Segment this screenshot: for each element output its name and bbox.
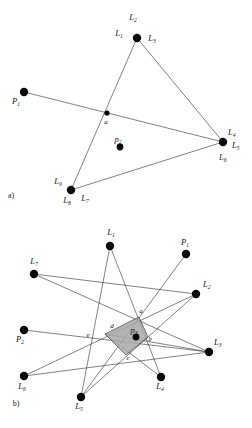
- node-dot-left: [20, 88, 28, 96]
- node-dot-L7: [30, 270, 38, 278]
- vertex-label: d: [110, 322, 114, 330]
- label-subscript: 3: [152, 38, 156, 44]
- node-dot-L2: [192, 290, 200, 298]
- label-subscript: 7: [86, 198, 89, 204]
- node-label: L1: [114, 28, 123, 39]
- label-subscript: 1: [17, 101, 20, 107]
- label-subscript: 6: [224, 157, 227, 163]
- label-subscript: 7: [35, 261, 38, 267]
- panel-a-caption: a): [8, 191, 15, 200]
- node-label: L7: [29, 256, 38, 267]
- node-label: P2: [15, 334, 24, 345]
- node-label: L9: [53, 176, 62, 187]
- node-label: L4: [227, 127, 236, 138]
- panel-b-caption: b): [13, 399, 20, 408]
- edge-line: [24, 352, 209, 376]
- node-label: p2: [113, 134, 121, 145]
- vertex-label: b: [148, 335, 152, 343]
- edge-line: [34, 274, 196, 294]
- label-subscript: 2: [119, 139, 122, 145]
- label-subscript: 4: [161, 386, 164, 392]
- node-label: P1: [11, 96, 20, 107]
- node-dot-L5: [77, 393, 85, 401]
- node-label: L5: [231, 140, 240, 151]
- figure-canvas: L2L1L3L4L5L6L9L8L7P1p2aa) L1L7P1L2P2L3L6…: [0, 0, 252, 428]
- label-subscript: 5: [80, 406, 83, 412]
- node-dot-L6: [20, 372, 28, 380]
- panel-b: L1L7P1L2P2L3L6L4L5p3abcdeb): [13, 227, 222, 412]
- edge-line: [24, 92, 223, 142]
- node-label: L2: [202, 279, 211, 290]
- node-dot-right: [219, 138, 227, 146]
- label-subscript: 2: [134, 17, 137, 23]
- edge-line: [81, 246, 110, 397]
- node-label: L6: [17, 381, 26, 392]
- vertex-label: e: [86, 331, 89, 339]
- label-subscript: 3: [134, 330, 138, 336]
- node-label: L5: [74, 401, 83, 412]
- label-subscript: 2: [21, 339, 24, 345]
- vertex-label: c: [126, 354, 130, 362]
- panel-a: L2L1L3L4L5L6L9L8L7P1p2aa): [8, 12, 240, 206]
- label-subscript: 1: [186, 242, 189, 248]
- node-dot-a: [104, 110, 109, 115]
- edge-line: [71, 38, 137, 190]
- node-dot-L1: [106, 242, 114, 250]
- vertex-label: a: [139, 307, 143, 315]
- node-dot-top: [133, 34, 141, 42]
- label-subscript: 2: [208, 284, 211, 290]
- edge-line: [137, 38, 223, 142]
- node-label: P1: [180, 237, 189, 248]
- vertex-label: a: [104, 118, 108, 126]
- label-subscript: 5: [237, 145, 240, 151]
- node-dot-L4: [157, 373, 165, 381]
- node-label: L6: [218, 152, 227, 163]
- node-label: L3: [147, 33, 156, 44]
- label-subscript: 8: [68, 200, 71, 206]
- node-label: L7: [80, 193, 89, 204]
- label-subscript: 3: [218, 342, 222, 348]
- label-subscript: 1: [120, 33, 123, 39]
- node-label: L4: [155, 381, 164, 392]
- node-label: L2: [128, 12, 137, 23]
- node-dot-bottom: [67, 186, 75, 194]
- label-subscript: 1: [112, 232, 115, 238]
- label-subscript: 9: [59, 181, 62, 187]
- node-label: L3: [213, 337, 222, 348]
- node-label: L1: [106, 227, 115, 238]
- node-dot-L3: [205, 348, 213, 356]
- edge-line: [71, 142, 223, 190]
- label-subscript: 4: [233, 132, 236, 138]
- node-dot-P2: [20, 326, 28, 334]
- node-label: L8: [62, 195, 71, 206]
- label-subscript: 6: [23, 386, 26, 392]
- node-dot-P1: [182, 250, 190, 258]
